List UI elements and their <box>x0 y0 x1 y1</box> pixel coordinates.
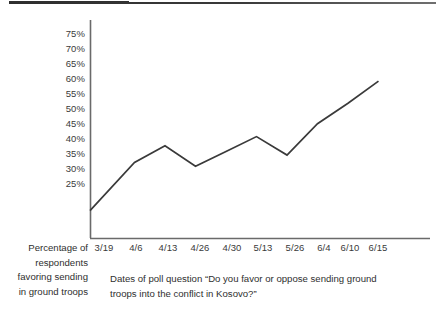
y-axis-title-line: favoring sending <box>2 270 88 285</box>
x-axis-caption-line: troops into the conflict in Kosovo?” <box>110 287 410 302</box>
y-axis-title: Percentage of respondents favoring sendi… <box>2 241 88 299</box>
x-tick-label: 4/13 <box>151 242 185 254</box>
x-tick-label: 4/6 <box>119 242 153 254</box>
x-tick-label: 4/26 <box>183 242 217 254</box>
x-axis-caption-line: Dates of poll question “Do you favor or … <box>110 272 410 287</box>
x-tick-label: 5/13 <box>246 242 280 254</box>
chart-figure: 75% 70% 65% 60% 55% 50% 45% 40% 35% 30% … <box>0 0 445 321</box>
x-axis-caption: Dates of poll question “Do you favor or … <box>110 272 410 301</box>
y-axis-title-line: respondents <box>2 256 88 271</box>
y-axis-title-line: Percentage of <box>2 241 88 256</box>
x-tick-label: 3/19 <box>87 242 121 254</box>
data-series-line <box>90 81 379 211</box>
y-axis-title-line: in ground troops <box>2 285 88 300</box>
x-tick-label: 6/15 <box>361 242 395 254</box>
x-tick-label: 4/30 <box>215 242 249 254</box>
